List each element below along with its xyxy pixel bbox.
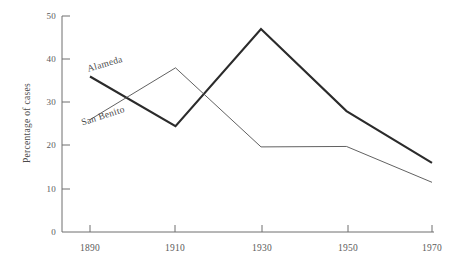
plot-area [0,0,466,263]
series-line-alameda [90,29,432,163]
y-tick-label: 40 [34,54,56,64]
x-tick-label: 1930 [242,243,282,253]
y-tick-label: 50 [34,11,56,21]
x-tick-label: 1970 [412,243,452,253]
x-tick-marks [90,225,432,232]
y-tick-label: 20 [34,140,56,150]
y-tick-label: 10 [34,184,56,194]
x-tick-label: 1910 [155,243,195,253]
y-tick-marks [62,16,70,189]
series-line-san-benito [90,68,432,182]
y-axis-title: Percentage of cases [22,53,32,193]
y-tick-label: 0 [34,227,56,237]
x-tick-label: 1950 [328,243,368,253]
line-chart: Percentage of cases 50 40 30 20 10 0 189… [0,0,466,263]
x-tick-label: 1890 [70,243,110,253]
y-tick-label: 30 [34,97,56,107]
